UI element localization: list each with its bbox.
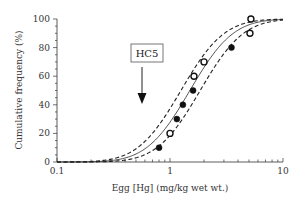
- filled-point: [180, 102, 186, 108]
- lower-confidence-bound-line: [57, 20, 283, 162]
- hc5-arrow-head-icon: [138, 93, 147, 104]
- curves: [57, 19, 283, 162]
- axes: 0204060801000.1110: [33, 14, 289, 176]
- y-axis-title: Cumulative frequency (%): [14, 30, 24, 149]
- x-axis-title: Egg [Hg] (mg/kg wet wt.): [112, 183, 229, 193]
- open-point: [191, 73, 197, 79]
- y-tick-label: 100: [33, 14, 50, 24]
- y-tick-label: 60: [39, 71, 51, 81]
- filled-point: [228, 45, 234, 51]
- open-point: [248, 16, 254, 22]
- hc5-annotation: HC5: [131, 44, 163, 104]
- chart: 0204060801000.1110 HC5 Egg [Hg] (mg/kg w…: [0, 0, 300, 209]
- y-tick-label: 40: [39, 100, 51, 110]
- fitted-curve-line: [57, 19, 283, 162]
- hc5-label: HC5: [136, 48, 159, 59]
- upper-confidence-bound-line: [57, 19, 283, 162]
- filled-point: [174, 116, 180, 122]
- filled-point: [190, 88, 196, 94]
- open-point: [167, 130, 173, 136]
- open-point: [247, 30, 253, 36]
- open-point: [201, 59, 207, 65]
- x-tick-label: 0.1: [50, 166, 64, 176]
- x-tick-label: 10: [277, 166, 289, 176]
- y-tick-label: 80: [39, 43, 51, 53]
- y-tick-label: 20: [39, 128, 51, 138]
- filled-point: [156, 145, 162, 151]
- x-tick-label: 1: [167, 166, 173, 176]
